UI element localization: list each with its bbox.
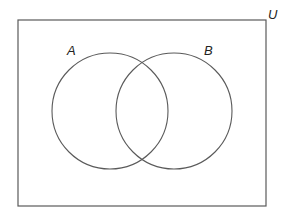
set-a-label: A — [66, 43, 76, 58]
set-a-circle — [52, 53, 168, 169]
set-b-label: B — [204, 43, 213, 58]
venn-diagram: U A B — [0, 0, 293, 219]
set-b-circle — [116, 53, 232, 169]
universe-rectangle — [18, 20, 266, 206]
universe-label: U — [268, 7, 278, 22]
